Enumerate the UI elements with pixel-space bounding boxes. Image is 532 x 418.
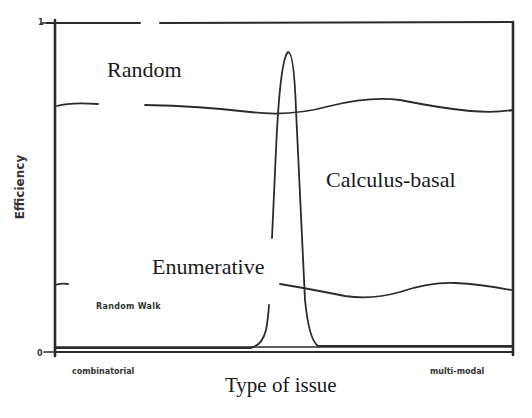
y-axis-label: Efficiency	[13, 155, 27, 219]
label-random-walk: Random Walk	[96, 302, 161, 311]
y-tick-label-top: 1	[38, 18, 44, 27]
label-random: Random	[107, 57, 182, 83]
efficiency-chart: Random Calculus-basal Enumerative Random…	[0, 0, 532, 418]
enumerative-curve	[55, 283, 511, 297]
plot-frame-top	[47, 22, 513, 23]
random-curve	[57, 99, 513, 114]
x-tick-label-left: combinatorial	[72, 367, 134, 376]
label-calculus-basal: Calculus-basal	[326, 167, 456, 193]
y-tick-label-bottom: 0	[37, 349, 43, 358]
x-tick-label-right: multi-modal	[430, 367, 484, 376]
x-axis-label: Type of issue	[225, 373, 337, 398]
chart-canvas	[0, 0, 532, 418]
label-enumerative: Enumerative	[152, 254, 264, 280]
